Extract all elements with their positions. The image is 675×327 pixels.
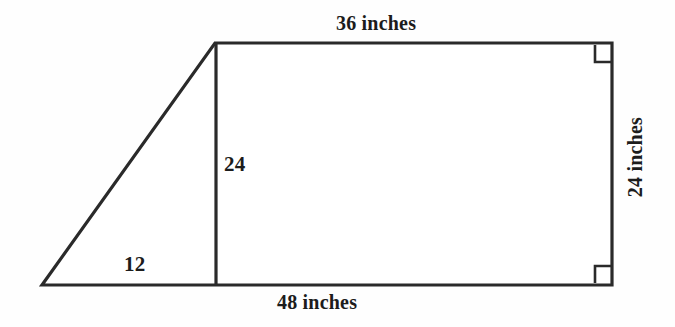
interior-height-label: 24 (224, 152, 245, 177)
bottom-edge-dimension-label: 48 inches (277, 291, 357, 314)
right-edge-dimension-text: 24 inches (624, 117, 647, 197)
triangle-base-label: 12 (124, 252, 145, 277)
trapezoid-figure (0, 0, 675, 327)
diagram-canvas: 36 inches 48 inches 24 inches 24 12 (0, 0, 675, 327)
right-edge-dimension-label: 24 inches (624, 37, 647, 117)
top-edge-dimension-label: 36 inches (336, 12, 416, 35)
